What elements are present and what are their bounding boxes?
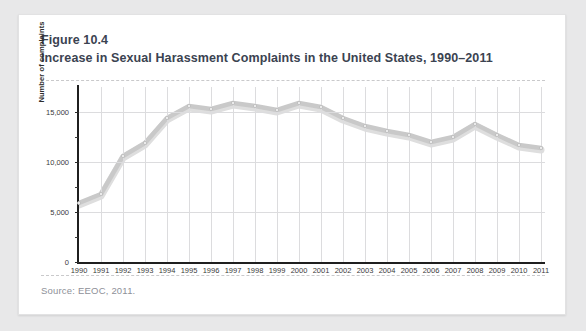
gridline-vertical bbox=[387, 87, 388, 262]
data-point-marker bbox=[517, 143, 521, 147]
data-point-marker bbox=[275, 108, 279, 112]
x-axis-line bbox=[77, 262, 545, 264]
gridline-vertical bbox=[101, 87, 102, 262]
x-axis-tick-label: 2008 bbox=[467, 266, 484, 275]
gridline-vertical bbox=[409, 87, 410, 262]
x-axis-tick-label: 1998 bbox=[247, 266, 264, 275]
x-axis-tick-label: 1996 bbox=[203, 266, 220, 275]
data-point-marker bbox=[495, 133, 499, 137]
y-axis-tick-mark bbox=[75, 162, 79, 163]
gridline-vertical bbox=[299, 87, 300, 262]
gridline-vertical bbox=[453, 87, 454, 262]
x-axis-tick-label: 2010 bbox=[511, 266, 528, 275]
y-axis-minor-tick bbox=[75, 187, 78, 188]
gridline-vertical bbox=[365, 87, 366, 262]
gridline-vertical bbox=[321, 87, 322, 262]
data-point-marker bbox=[121, 154, 125, 158]
x-axis-tick-label: 1991 bbox=[93, 266, 110, 275]
x-axis-tick-label: 2004 bbox=[379, 266, 396, 275]
figure-card: Figure 10.4 Increase in Sexual Harassmen… bbox=[18, 14, 566, 315]
data-point-marker bbox=[143, 141, 147, 145]
y-axis-minor-tick bbox=[75, 237, 78, 238]
gridline-vertical bbox=[233, 87, 234, 262]
data-point-marker bbox=[99, 192, 103, 196]
data-point-marker bbox=[77, 201, 81, 205]
figure-number: Figure 10.4 bbox=[41, 33, 108, 47]
data-point-marker bbox=[407, 133, 411, 137]
x-axis-tick-label: 2001 bbox=[313, 266, 330, 275]
x-axis-tick-label: 1997 bbox=[225, 266, 242, 275]
y-axis-minor-tick bbox=[75, 137, 78, 138]
gridline-vertical bbox=[541, 87, 542, 262]
x-axis-tick-label: 1994 bbox=[159, 266, 176, 275]
x-axis-tick-label: 2011 bbox=[533, 266, 549, 275]
data-point-marker bbox=[429, 140, 433, 144]
gridline-vertical bbox=[497, 87, 498, 262]
gridline-vertical bbox=[167, 87, 168, 262]
data-point-marker bbox=[363, 124, 367, 128]
data-point-marker bbox=[473, 122, 477, 126]
x-axis-tick-label: 2002 bbox=[335, 266, 352, 275]
x-axis-tick-label: 1999 bbox=[269, 266, 286, 275]
x-axis-tick-label: 2003 bbox=[357, 266, 374, 275]
gridline-vertical bbox=[519, 87, 520, 262]
page-title: Increase in Sexual Harassment Complaints… bbox=[41, 51, 493, 65]
line-chart: Number of complaints 05,00010,00015,000 … bbox=[41, 87, 545, 271]
data-point-marker bbox=[231, 101, 235, 105]
gridline-vertical bbox=[343, 87, 344, 262]
gridline-vertical bbox=[211, 87, 212, 262]
x-axis-tick-label: 2005 bbox=[401, 266, 418, 275]
x-axis-tick-label: 2000 bbox=[291, 266, 308, 275]
data-point-marker bbox=[253, 104, 257, 108]
y-axis-tick-label: 15,000 bbox=[46, 108, 69, 117]
data-point-marker bbox=[165, 116, 169, 120]
x-axis-tick-label: 1990 bbox=[71, 266, 88, 275]
y-axis-tick-mark bbox=[75, 212, 79, 213]
gridline-vertical bbox=[431, 87, 432, 262]
gridline-vertical bbox=[277, 87, 278, 262]
y-axis-tick-label: 10,000 bbox=[46, 158, 69, 167]
gridline-vertical bbox=[475, 87, 476, 262]
y-axis-tick-mark bbox=[75, 112, 79, 113]
data-point-marker bbox=[341, 116, 345, 120]
x-axis-tick-label: 2009 bbox=[489, 266, 506, 275]
x-axis-tick-label: 1993 bbox=[137, 266, 154, 275]
y-axis-tick-mark bbox=[75, 262, 79, 263]
data-point-marker bbox=[451, 135, 455, 139]
x-axis-tick-label: 1995 bbox=[181, 266, 198, 275]
data-point-marker bbox=[187, 104, 191, 108]
divider-bottom bbox=[41, 275, 545, 276]
source-note: Source: EEOC, 2011. bbox=[41, 285, 135, 296]
gridline-vertical bbox=[255, 87, 256, 262]
y-axis-tick-label: 0 bbox=[65, 258, 69, 267]
gridline-vertical bbox=[123, 87, 124, 262]
data-point-marker bbox=[209, 107, 213, 111]
divider-top bbox=[41, 80, 545, 81]
y-axis-ticks: 05,00010,00015,000 bbox=[41, 87, 75, 271]
x-axis-tick-label: 1992 bbox=[115, 266, 132, 275]
data-point-marker bbox=[319, 105, 323, 109]
gridline-vertical bbox=[145, 87, 146, 262]
data-point-marker bbox=[297, 101, 301, 105]
y-axis-tick-label: 5,000 bbox=[50, 208, 69, 217]
data-point-marker bbox=[385, 129, 389, 133]
plot-area bbox=[79, 87, 545, 262]
gridline-vertical bbox=[189, 87, 190, 262]
x-axis-tick-label: 2006 bbox=[423, 266, 440, 275]
x-axis-tick-label: 2007 bbox=[445, 266, 462, 275]
data-point-marker bbox=[539, 146, 543, 150]
